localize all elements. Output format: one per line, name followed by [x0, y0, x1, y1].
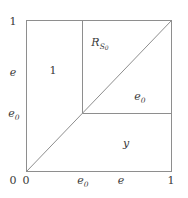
region-label-upper-middle: RS0: [91, 37, 108, 48]
y-tick-label-1: 1: [10, 16, 17, 27]
x-tick-subscript-e0: 0: [84, 179, 89, 188]
x-tick-label-e: e: [118, 175, 125, 186]
region-label-lower: y: [123, 138, 129, 149]
region-label-upper-left: 1: [50, 65, 57, 76]
y-tick-label-0: 0: [10, 175, 17, 186]
region-label-subscript-s: S0: [100, 41, 109, 50]
y-tick-subscript-e0: 0: [15, 112, 20, 121]
region-label-right-subscript: 0: [141, 95, 146, 104]
x-tick-label-0: 0: [23, 175, 30, 186]
region-label-right: e0: [134, 91, 145, 102]
region-label-subscript-zero: 0: [105, 44, 109, 51]
y-tick-label-e: e: [10, 67, 17, 78]
x-tick-label-1: 1: [168, 175, 175, 186]
y-tick-label-e0: e0: [8, 108, 19, 119]
diagram-canvas: [0, 0, 188, 198]
square-region-diagram: 1 e e0 0 0 e0 e 1 1 RS0 e0 y: [0, 0, 188, 198]
x-tick-label-e0: e0: [77, 175, 88, 186]
